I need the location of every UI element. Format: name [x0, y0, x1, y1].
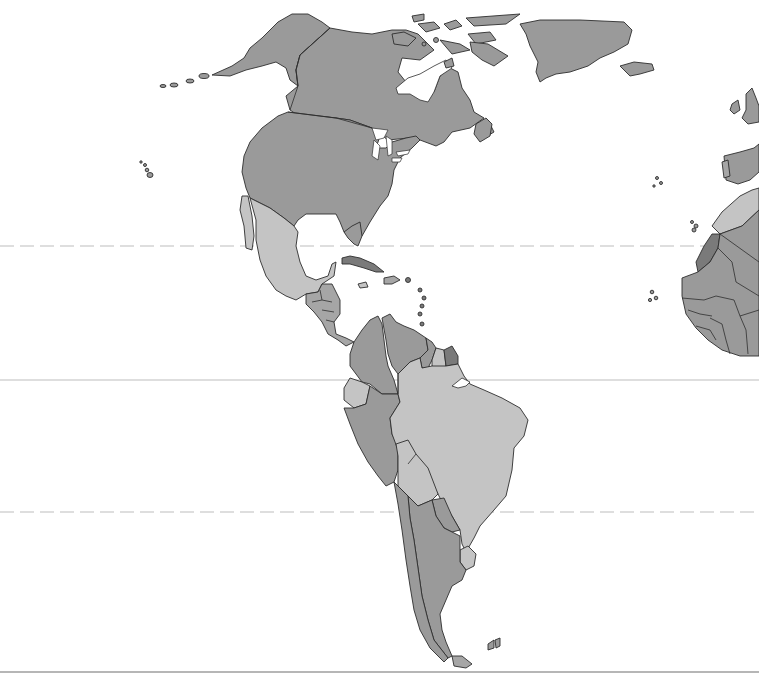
region-french-guiana — [444, 346, 458, 366]
azores-islands — [653, 177, 663, 188]
cape-verde-islands — [648, 290, 657, 301]
aleutian-islands — [160, 74, 209, 88]
region-tierra-del-fuego — [452, 656, 472, 668]
canary-islands — [691, 221, 699, 233]
region-hispaniola — [384, 276, 400, 284]
falkland-islands — [488, 638, 500, 650]
map-canvas — [0, 0, 759, 685]
region-iceland — [620, 62, 654, 76]
region-iberia — [724, 144, 759, 184]
region-great-britain — [742, 88, 759, 124]
region-jamaica — [358, 282, 368, 288]
region-cuba — [342, 256, 384, 272]
region-central-america — [306, 284, 354, 346]
hawaii-islands — [140, 161, 153, 178]
region-ireland — [730, 100, 740, 114]
lesser-antilles — [406, 278, 427, 327]
americas-map — [0, 0, 759, 685]
region-greenland — [520, 20, 632, 82]
